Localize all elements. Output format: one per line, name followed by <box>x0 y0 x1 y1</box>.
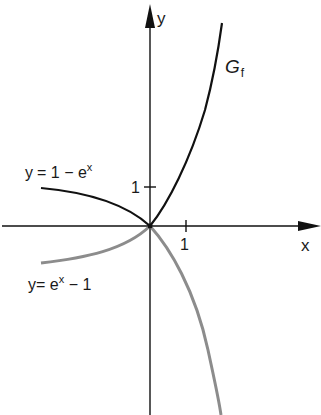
label-ex-minus-1: y= ex − 1 <box>28 273 91 293</box>
curve-ex-minus-1-right <box>150 226 221 415</box>
y-axis <box>144 4 156 415</box>
curve-gf-right <box>150 23 222 226</box>
y-axis-arrow-icon <box>145 4 155 28</box>
x-axis-label: x <box>301 236 310 255</box>
label-1-minus-ex: y= 1 − ex <box>25 161 93 181</box>
gf-label: Gf <box>225 56 245 80</box>
origin-point <box>148 224 153 229</box>
x-tick-label: 1 <box>180 236 189 253</box>
y-axis-label: y <box>157 9 166 28</box>
y-tick-label: 1 <box>131 179 140 196</box>
x-axis-arrow-icon <box>298 221 321 231</box>
x-axis <box>2 220 321 232</box>
curve-ex-minus-1-left <box>41 226 150 263</box>
function-graph: y x 1 1 Gf y= 1 − ex y= ex − 1 <box>0 0 321 415</box>
